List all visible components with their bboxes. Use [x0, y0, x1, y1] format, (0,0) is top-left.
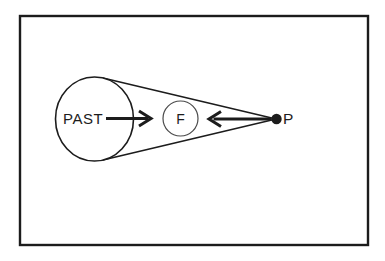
past-label: PAST [63, 110, 103, 127]
p-label: P [283, 110, 293, 127]
leftward-arrow [209, 112, 272, 127]
f-label: F [176, 111, 185, 127]
light-cone-diagram: PAST F P [0, 0, 385, 261]
diagram-canvas: PAST F P [0, 0, 385, 261]
point-p-dot [271, 114, 281, 124]
